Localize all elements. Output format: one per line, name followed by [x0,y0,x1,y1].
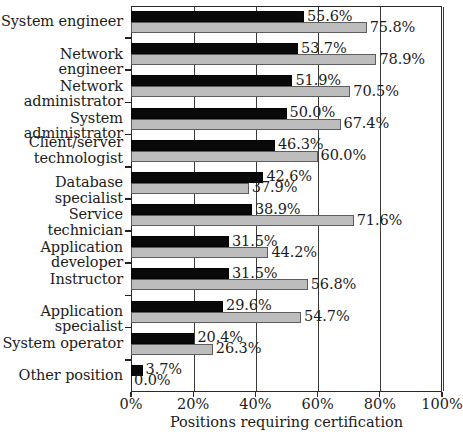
bar-track: 54.7% [131,312,442,323]
bar[interactable] [131,333,194,344]
bar-track: 29.6% [131,301,442,312]
bar-rows: 55.6%75.8%53.7%78.9%51.9%70.5%50.0%67.4%… [131,6,442,392]
bar[interactable] [131,344,213,355]
bar[interactable] [131,247,268,258]
bar-value-label: 26.3% [216,342,262,357]
bar-value-label: 71.6% [357,213,403,228]
bar-track: 31.5% [131,268,442,279]
bar[interactable] [131,54,376,65]
x-tick-label: 60% [301,397,333,413]
bar-group: 50.0%67.4% [131,108,442,130]
bar-value-label: 56.8% [311,277,357,292]
bar[interactable] [131,172,263,183]
category-tick [125,262,132,264]
category-label: Database specialist [0,175,123,206]
category-label: Network engineer [0,47,123,78]
value-axis-ticks: 0%20%40%60%80%100% [131,392,442,412]
bar-track: 46.3% [131,140,442,151]
category-tick [125,359,132,361]
category-axis-labels: System engineerNetwork engineerNetwork a… [0,6,127,392]
x-tick-label: 100% [421,397,462,413]
bar[interactable] [131,22,367,33]
bar-group: 29.6%54.7% [131,301,442,323]
bar-track: 60.0% [131,151,442,162]
category-tick [125,327,132,329]
bar-group: 20.4%26.3% [131,333,442,355]
bar[interactable] [131,268,229,279]
bar-chart: System engineerNetwork engineerNetwork a… [0,0,463,434]
bar-group: 3.7%0.0% [131,365,442,387]
bar-track: 37.9% [131,183,442,194]
bar-value-label: 67.4% [344,117,390,132]
category-tick [125,198,132,200]
bar-group: 51.9%70.5% [131,75,442,97]
category-tick [125,102,132,104]
bar[interactable] [131,43,298,54]
category-tick [125,69,132,71]
bar[interactable] [131,279,308,290]
bar-track: 78.9% [131,54,442,65]
bar[interactable] [131,75,292,86]
category-tick [125,166,132,168]
bar-track: 75.8% [131,22,442,33]
bar[interactable] [131,140,275,151]
bar[interactable] [131,312,301,323]
x-tick-label: 0% [119,397,142,413]
bar-group: 38.9%71.6% [131,204,442,226]
bar-track: 26.3% [131,344,442,355]
bar-track: 3.7% [131,365,442,376]
category-label: System engineer [1,14,123,30]
category-tick [125,134,132,136]
category-label: Application developer [0,240,123,271]
bar-track: 71.6% [131,215,442,226]
bar-value-label: 54.7% [304,310,350,325]
bar[interactable] [131,215,354,226]
category-tick [125,230,132,232]
bar-track: 56.8% [131,279,442,290]
bar-group: 55.6%75.8% [131,11,442,33]
category-label: Application specialist [0,304,123,335]
bar-track: 0.0% [131,376,442,387]
bar-value-label: 60.0% [321,149,367,164]
bar[interactable] [131,236,229,247]
category-tick [125,37,132,39]
bar[interactable] [131,301,223,312]
category-label: Instructor [50,272,123,288]
bar-track: 44.2% [131,247,442,258]
x-axis-title: Positions requiring certification [131,414,442,430]
category-label: Service technician [0,207,123,238]
bar-group: 42.6%37.9% [131,172,442,194]
bar[interactable] [131,11,304,22]
bar-track: 50.0% [131,108,442,119]
x-tick-label: 40% [239,397,271,413]
bar-group: 31.5%56.8% [131,268,442,290]
bar-group: 53.7%78.9% [131,43,442,65]
bar[interactable] [131,108,287,119]
x-tick-label: 20% [177,397,209,413]
bar-track: 20.4% [131,333,442,344]
bar-track: 70.5% [131,86,442,97]
bar[interactable] [131,119,341,130]
x-tick-label: 80% [364,397,396,413]
bar[interactable] [131,204,252,215]
category-label: Other position [19,368,123,384]
bar-group: 31.5%44.2% [131,236,442,258]
category-tick [125,295,132,297]
bar-value-label: 44.2% [271,245,317,259]
bar-value-label: 70.5% [353,84,399,99]
bar-value-label: 37.9% [252,181,298,196]
category-label: System operator [3,336,124,352]
bar[interactable] [131,151,318,162]
bar-group: 46.3%60.0% [131,140,442,162]
category-label: Client/server technologist [29,135,123,166]
bar-track: 67.4% [131,119,442,130]
bar[interactable] [131,86,350,97]
category-label: Network administrator [0,79,123,110]
gridline [443,7,444,391]
bar[interactable] [131,183,249,194]
bar-value-label: 78.9% [379,52,425,67]
bar-value-label: 75.8% [370,20,416,35]
bar-value-label: 0.0% [134,374,170,389]
